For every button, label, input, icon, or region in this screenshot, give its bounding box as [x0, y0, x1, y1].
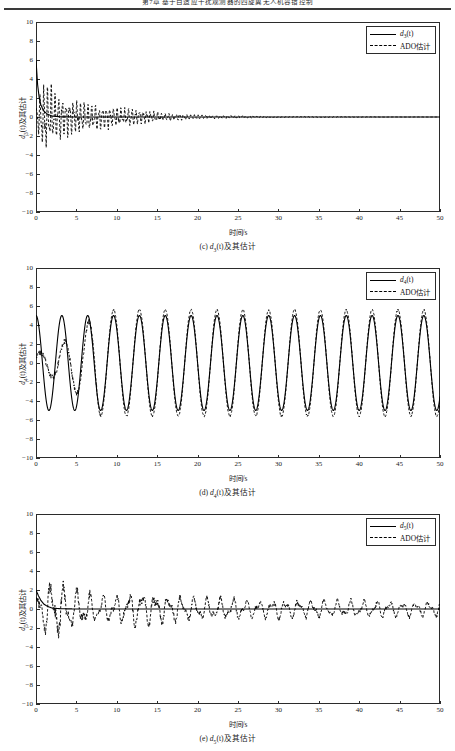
x-tick-d-50: 50	[440, 455, 441, 459]
y-tick-label-e-6: 6	[30, 548, 34, 556]
x-tick-label-c-30: 30	[275, 214, 282, 222]
x-tick-label-c-0: 0	[34, 214, 38, 222]
legend-dashed-line-icon-c	[370, 42, 396, 50]
y-tick-label-d-6: 6	[30, 302, 34, 310]
y-tick-label-d-2: 2	[30, 340, 34, 348]
y-tick-label-e-8: 8	[30, 529, 34, 537]
x-tick-label-c-40: 40	[356, 214, 363, 222]
plot-area-d: d4(t)及其估计 10 8 6 4 2 0 −2 −4 −6 −8 −10 0…	[0, 260, 455, 468]
x-tick-label-e-45: 45	[396, 706, 403, 714]
y-tick-label-d-n6: −6	[26, 416, 33, 424]
x-tick-label-d-10: 10	[113, 460, 120, 468]
y-tick-c-n10: −10	[36, 212, 40, 213]
y-tick-label-c-8: 8	[30, 37, 34, 45]
legend-item-estimate-c: ADO估计	[370, 40, 430, 51]
x-tick-label-c-15: 15	[154, 214, 161, 222]
legend-label-signal-c: d3(t)	[400, 29, 413, 39]
x-axis-label-c: 时间/s	[36, 226, 440, 237]
legend-label-estimate-e: ADO估计	[400, 532, 430, 543]
page-header: 第7章 基于自适应干扰观测器的四旋翼无人机容错控制	[0, 0, 455, 11]
x-tick-label-c-20: 20	[194, 214, 201, 222]
x-tick-label-d-35: 35	[315, 460, 322, 468]
x-tick-label-d-50: 50	[437, 460, 444, 468]
y-tick-label-d-10: 10	[26, 264, 33, 272]
x-tick-label-d-25: 25	[235, 460, 242, 468]
y-tick-label-c-4: 4	[30, 75, 34, 83]
y-axis-label-suffix-e: (t)及其估计	[18, 589, 27, 624]
y-tick-label-e-n10: −10	[22, 700, 33, 708]
x-tick-label-e-10: 10	[113, 706, 120, 714]
x-tick-label-e-0: 0	[34, 706, 38, 714]
x-axis-label-e: 时间/s	[36, 718, 440, 729]
legend-d: d4(t) ADO估计	[366, 272, 436, 300]
x-tick-label-e-40: 40	[356, 706, 363, 714]
y-tick-label-e-10: 10	[26, 510, 33, 518]
y-tick-e-n10: −10	[36, 704, 40, 705]
y-tick-label-c-n8: −8	[26, 189, 33, 197]
legend-item-signal-c: d3(t)	[370, 29, 430, 40]
x-tick-label-e-5: 5	[75, 706, 79, 714]
x-tick-label-e-35: 35	[315, 706, 322, 714]
figure-c: d3(t)及其估计 10 8 6 4 2 0 −2 −4 −6 −8 −10 0…	[0, 14, 455, 260]
y-tick-label-d-8: 8	[30, 283, 34, 291]
axes-c: 10 8 6 4 2 0 −2 −4 −6 −8 −10 0 5 10 15 2…	[36, 22, 440, 212]
x-tick-label-d-0: 0	[34, 460, 38, 468]
legend-label-signal-e: d5(t)	[400, 521, 413, 531]
x-tick-label-e-15: 15	[154, 706, 161, 714]
y-tick-label-c-0: 0	[30, 113, 34, 121]
plot-area-c: d3(t)及其估计 10 8 6 4 2 0 −2 −4 −6 −8 −10 0…	[0, 14, 455, 222]
y-tick-label-d-0: 0	[30, 359, 34, 367]
legend-item-signal-d: d4(t)	[370, 275, 430, 286]
y-tick-label-e-n6: −6	[26, 662, 33, 670]
y-axis-label-suffix-d: (t)及其估计	[18, 343, 27, 378]
legend-solid-line-icon-c	[370, 31, 396, 39]
y-tick-label-c-n4: −4	[26, 151, 33, 159]
y-axis-label-suffix-c: (t)及其估计	[18, 97, 27, 132]
x-tick-label-c-50: 50	[437, 214, 444, 222]
x-tick-c-50: 50	[440, 209, 441, 213]
plot-area-e: d5(t)及其估计 10 8 6 4 2 0 −2 −4 −6 −8 −10 0…	[0, 506, 455, 714]
legend-item-signal-e: d5(t)	[370, 521, 430, 532]
x-tick-label-c-5: 5	[75, 214, 79, 222]
figure-d: d4(t)及其估计 10 8 6 4 2 0 −2 −4 −6 −8 −10 0…	[0, 260, 455, 506]
y-tick-label-d-4: 4	[30, 321, 34, 329]
legend-solid-line-icon-e	[370, 523, 396, 531]
x-tick-e-50: 50	[440, 701, 441, 705]
page-header-title: 第7章 基于自适应干扰观测器的四旋翼无人机容错控制	[0, 0, 455, 6]
legend-solid-line-icon-d	[370, 277, 396, 285]
x-tick-label-e-50: 50	[437, 706, 444, 714]
y-tick-label-c-n2: −2	[26, 132, 33, 140]
x-tick-label-e-25: 25	[235, 706, 242, 714]
y-tick-label-d-n8: −8	[26, 435, 33, 443]
y-tick-label-e-n8: −8	[26, 681, 33, 689]
legend-dashed-line-icon-e	[370, 534, 396, 542]
legend-label-signal-d: d4(t)	[400, 275, 413, 285]
axes-d: 10 8 6 4 2 0 −2 −4 −6 −8 −10 0 5 10 15 2…	[36, 268, 440, 458]
x-tick-label-d-20: 20	[194, 460, 201, 468]
x-tick-label-d-30: 30	[275, 460, 282, 468]
x-tick-label-d-15: 15	[154, 460, 161, 468]
x-tick-label-c-35: 35	[315, 214, 322, 222]
figure-caption-c: (c) d3(t)及其估计	[0, 240, 455, 253]
y-tick-label-e-2: 2	[30, 586, 34, 594]
y-tick-label-d-n2: −2	[26, 378, 33, 386]
figure-e: d5(t)及其估计 10 8 6 4 2 0 −2 −4 −6 −8 −10 0…	[0, 506, 455, 751]
y-tick-label-c-2: 2	[30, 94, 34, 102]
y-tick-label-c-6: 6	[30, 56, 34, 64]
x-tick-label-c-25: 25	[235, 214, 242, 222]
legend-item-estimate-d: ADO估计	[370, 286, 430, 297]
x-tick-label-d-5: 5	[75, 460, 79, 468]
axes-e: 10 8 6 4 2 0 −2 −4 −6 −8 −10 0 5 10 15 2…	[36, 514, 440, 704]
x-tick-label-c-45: 45	[396, 214, 403, 222]
legend-dashed-line-icon-d	[370, 288, 396, 296]
y-tick-label-c-n6: −6	[26, 170, 33, 178]
y-tick-label-d-n4: −4	[26, 397, 33, 405]
x-tick-label-c-10: 10	[113, 214, 120, 222]
y-tick-label-e-n4: −4	[26, 643, 33, 651]
y-tick-label-e-n2: −2	[26, 624, 33, 632]
x-tick-label-e-20: 20	[194, 706, 201, 714]
y-tick-label-c-n10: −10	[22, 208, 33, 216]
legend-item-estimate-e: ADO估计	[370, 532, 430, 543]
x-tick-label-d-40: 40	[356, 460, 363, 468]
figure-caption-e: (e) d5(t)及其估计	[0, 732, 455, 745]
